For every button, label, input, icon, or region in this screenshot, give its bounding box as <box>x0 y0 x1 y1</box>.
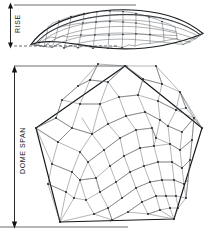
plan-rhombic-tiling <box>36 64 202 222</box>
rise-dimension-arrow <box>8 3 13 49</box>
rise-label: RISE <box>14 14 21 33</box>
pentagon-outline <box>36 66 202 222</box>
dome-elevation-view: RISE <box>8 3 203 50</box>
dome-span-dimension-arrow <box>12 66 17 229</box>
dome-plan-view: DOME SPAN <box>0 63 203 228</box>
dome-geometry-diagram: RISE <box>0 0 210 235</box>
dome-span-label: DOME SPAN <box>19 127 26 174</box>
dome-rim-inner-curve <box>35 15 200 44</box>
